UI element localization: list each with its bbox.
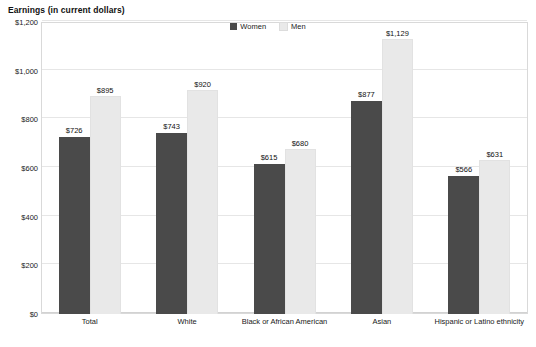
bar-value-label: $631 xyxy=(486,150,503,159)
bar-value-label: $566 xyxy=(455,165,472,174)
x-tick-label: White xyxy=(178,317,197,326)
bar-value-label: $743 xyxy=(163,122,180,131)
y-tick-label: $200 xyxy=(2,261,38,270)
bar-group: $743$920 xyxy=(156,22,218,314)
bar-value-label: $877 xyxy=(358,90,375,99)
bar-value-label: $1,129 xyxy=(386,29,409,38)
bar-group: $877$1,129 xyxy=(351,22,413,314)
bar-value-label: $615 xyxy=(261,153,278,162)
bar-value-label: $920 xyxy=(194,80,211,89)
bar-group: $726$895 xyxy=(59,22,121,314)
y-tick-label: $400 xyxy=(2,212,38,221)
y-tick-label: $1,000 xyxy=(2,66,38,75)
y-tick-label: $1,200 xyxy=(2,18,38,27)
bar-value-label: $680 xyxy=(292,139,309,148)
x-tick-label: Total xyxy=(82,317,98,326)
bar-value-label: $726 xyxy=(66,126,83,135)
y-tick-label: $600 xyxy=(2,164,38,173)
bar-group: $615$680 xyxy=(254,22,316,314)
bar-men[interactable]: $920 xyxy=(187,90,218,314)
x-tick-label: Hispanic or Latino ethnicity xyxy=(434,317,524,326)
bar-women[interactable]: $566 xyxy=(448,176,479,314)
bar-group: $566$631 xyxy=(448,22,510,314)
chart-title: Earnings (in current dollars) xyxy=(8,5,125,15)
bar-men[interactable]: $1,129 xyxy=(382,39,413,314)
y-tick-label: $800 xyxy=(2,115,38,124)
bar-value-label: $895 xyxy=(97,86,114,95)
bar-groups: $726$895$743$920$615$680$877$1,129$566$6… xyxy=(41,22,528,314)
gridline-1200 xyxy=(42,20,527,21)
bar-women[interactable]: $726 xyxy=(59,137,90,314)
y-axis: $0$200$400$600$800$1,000$1,200 xyxy=(0,22,38,314)
bar-women[interactable]: $615 xyxy=(254,164,285,314)
bar-men[interactable]: $631 xyxy=(479,160,510,314)
x-tick-label: Asian xyxy=(373,317,392,326)
bar-men[interactable]: $680 xyxy=(285,149,316,314)
y-tick-label: $0 xyxy=(2,310,38,319)
bar-men[interactable]: $895 xyxy=(90,96,121,314)
x-tick-label: Black or African American xyxy=(242,317,327,326)
bar-women[interactable]: $877 xyxy=(351,101,382,314)
x-axis: TotalWhiteBlack or African AmericanAsian… xyxy=(41,317,528,337)
bar-women[interactable]: $743 xyxy=(156,133,187,314)
earnings-bar-chart: Earnings (in current dollars) $0$200$400… xyxy=(0,0,536,347)
